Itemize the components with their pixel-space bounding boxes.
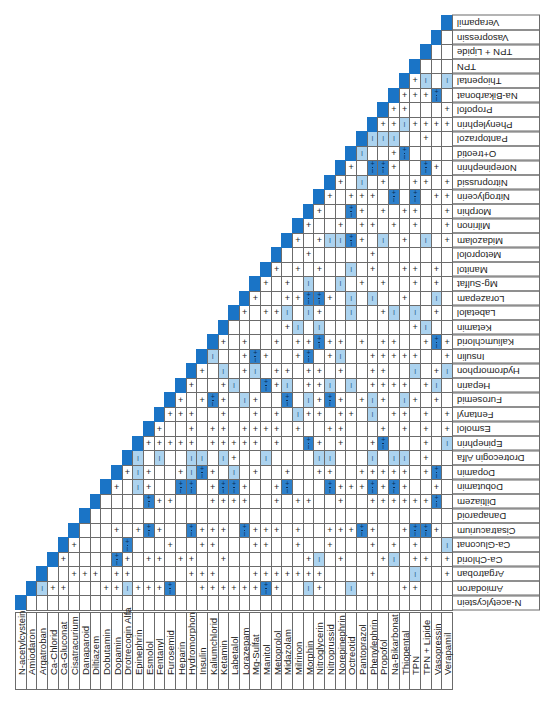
diagonal-cell [47,552,58,567]
row-label: Fentanyl [452,407,540,423]
row-label: Phenylephrin [452,117,540,133]
diagonal-cell [431,30,442,45]
row-label: Verapamil [452,15,540,31]
row-label: Nitroglycerin [452,189,540,205]
diagonal-cell [228,305,239,320]
diagonal-cell [111,465,122,480]
diagonal-cell [356,131,367,146]
diagonal-cell [271,247,282,262]
diagonal-cell [164,392,175,407]
diagonal-cell [100,479,111,494]
diagonal-cell [175,378,186,393]
row-label: Nitroprussid [452,175,540,191]
row-label: Drotrecogin Alfa [452,450,540,466]
row-label: Metoprolol [452,247,540,263]
diagonal-cell [420,44,431,59]
row-label: Dobutamin [452,479,540,495]
row-label: Midazolam [452,233,540,249]
row-label: Manitol [452,262,540,278]
diagonal-cell [388,88,399,103]
row-label: Vasopressin [452,30,540,46]
diagonal-cell [345,146,356,161]
diagonal-cell [207,334,218,349]
diagonal-cell [26,581,37,596]
diagonal-cell [377,102,388,117]
row-label: Kaliumchlorid [452,334,540,350]
row-label: Thiopental [452,73,540,89]
row-label: Morphin [452,204,540,220]
diagonal-cell [367,117,378,132]
diagonal-cell [122,450,133,465]
column-label: Verapamil [441,612,453,690]
row-label: N-acetylcystein [452,595,540,611]
row-label: Esmolol [452,421,540,437]
row-label: Danaparoid [452,508,540,524]
row-label: Epinephrin [452,436,540,452]
row-label: Mg-Sulfat [452,276,540,292]
diagonal-cell [218,320,229,335]
diagonal-cell [324,175,335,190]
diagonal-cell [186,363,197,378]
diagonal-cell [292,218,303,233]
compatibility-matrix: N-acetylcysteinN-acetylcysteinAmiodaronA… [0,0,542,721]
row-label: Amiodaron [452,581,540,597]
row-label: Labetalol [452,305,540,321]
diagonal-cell [313,189,324,204]
row-label: Diltiazem [452,494,540,510]
diagonal-cell [143,421,154,436]
diagonal-cell [303,204,314,219]
row-label: Milrinon [452,218,540,234]
row-label: Insulin [452,349,540,365]
row-label: Norepinephrin [452,160,540,176]
row-label: Heparin [452,378,540,394]
diagonal-cell [399,73,410,88]
diagonal-cell [335,160,346,175]
diagonal-cell [239,291,250,306]
diagonal-cell [260,262,271,277]
diagonal-cell [79,508,90,523]
diagonal-cell [281,233,292,248]
diagonal-cell [154,407,165,422]
row-label: O+treotid [452,146,540,162]
row-label: TPN [452,59,540,75]
diagonal-cell [132,436,143,451]
row-label: TPN + Lipide [452,44,540,60]
row-label: Hydromorphon [452,363,540,379]
row-label: Dopamin [452,465,540,481]
row-label: Na-Bikarbonat [452,88,540,104]
row-label: Ketamin [452,320,540,336]
row-label: Ca-Chlorid [452,552,540,568]
row-label: Pantoprazol [452,131,540,147]
diagonal-cell [409,59,420,74]
diagonal-cell [90,494,101,509]
row-label: Lorazepam [452,291,540,307]
row-label: Propofol [452,102,540,118]
diagonal-cell [196,349,207,364]
diagonal-cell [249,276,260,291]
row-label: Argatroban [452,566,540,582]
diagonal-cell [441,15,452,30]
diagonal-cell [68,523,79,538]
row-label: Cisatracurium [452,523,540,539]
diagonal-cell [15,595,26,610]
diagonal-cell [36,566,47,581]
row-label: Ca-Gluconat [452,537,540,553]
row-label: Furosemid [452,392,540,408]
diagonal-cell [58,537,69,552]
